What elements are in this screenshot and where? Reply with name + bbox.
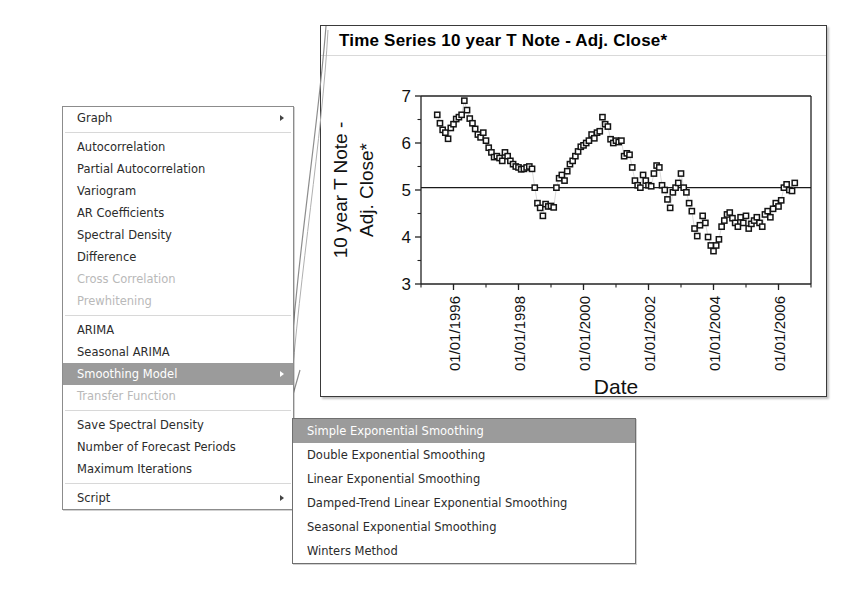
menu-item-variogram[interactable]: Variogram [63,180,293,202]
submenu-item-linear-exponential-smoothing[interactable]: Linear Exponential Smoothing [293,467,635,491]
data-point-marker [464,108,469,113]
submenu-item-double-exponential-smoothing[interactable]: Double Exponential Smoothing [293,443,635,467]
data-point-marker [651,171,656,176]
menu-item-label: Cross Correlation [77,272,176,286]
data-point-marker [770,206,775,211]
data-point-marker [692,226,697,231]
x-tick-label: 01/01/1998 [511,296,528,371]
chart-window: Time Series 10 year T Note - Adj. Close*… [320,25,827,397]
y-axis-title-line2: Adj. Close* [356,142,377,237]
menu-item-transfer-function: Transfer Function [63,385,293,407]
menu-item-label: Seasonal ARIMA [77,345,170,359]
y-tick-label: 4 [402,228,411,247]
menu-item-number-of-forecast-periods[interactable]: Number of Forecast Periods [63,436,293,458]
submenu-item-seasonal-exponential-smoothing[interactable]: Seasonal Exponential Smoothing [293,515,635,539]
menu-item-arima[interactable]: ARIMA [63,319,293,341]
menu-item-label: ARIMA [77,323,114,337]
data-point-marker [540,213,545,218]
data-point-marker [700,213,705,218]
data-point-marker [735,224,740,229]
menu-item-maximum-iterations[interactable]: Maximum Iterations [63,458,293,480]
data-point-marker [445,136,450,141]
menu-item-label: Prewhitening [77,294,152,308]
menu-item-seasonal-arima[interactable]: Seasonal ARIMA [63,341,293,363]
smoothing-model-submenu[interactable]: Simple Exponential SmoothingDouble Expon… [292,418,636,564]
data-point-marker [592,136,597,141]
data-point-marker [532,185,537,190]
x-tick-label: 01/01/1996 [446,296,463,371]
menu-item-script[interactable]: Script [63,487,293,509]
chart-title: Time Series 10 year T Note - Adj. Close* [321,26,826,56]
menu-item-label: Script [77,491,110,505]
menu-item-prewhitening: Prewhitening [63,290,293,312]
x-tick-label: 01/01/2000 [576,296,593,371]
data-point-marker [462,98,467,103]
data-point-marker [738,215,743,220]
chevron-right-icon [280,371,284,377]
data-point-marker [708,243,713,248]
data-point-marker [443,130,448,135]
data-point-marker [662,187,667,192]
menu-separator [65,410,291,411]
chevron-right-icon [280,495,284,501]
data-point-marker [754,215,759,220]
data-point-marker [697,223,702,228]
data-point-marker [714,243,719,248]
menu-separator [65,483,291,484]
menu-item-label: Variogram [77,184,136,198]
menu-item-ar-coefficients[interactable]: AR Coefficients [63,202,293,224]
menu-item-label: Partial Autocorrelation [77,162,205,176]
analysis-context-menu[interactable]: GraphAutocorrelationPartial Autocorrelat… [62,106,294,510]
menu-item-spectral-density[interactable]: Spectral Density [63,224,293,246]
data-point-marker [722,218,727,223]
menu-item-partial-autocorrelation[interactable]: Partial Autocorrelation [63,158,293,180]
menu-item-label: Save Spectral Density [77,418,204,432]
data-point-marker [538,205,543,210]
data-point-marker [719,224,724,229]
menu-item-label: Number of Forecast Periods [77,440,236,454]
menu-item-graph[interactable]: Graph [63,107,293,129]
menu-item-smoothing-model[interactable]: Smoothing Model [63,363,293,385]
menu-item-autocorrelation[interactable]: Autocorrelation [63,136,293,158]
data-point-marker [657,165,662,170]
menu-item-label: Autocorrelation [77,140,165,154]
y-axis-title-line1: 10 year T Note - [330,122,351,259]
data-point-marker [619,138,624,143]
menu-separator [65,132,291,133]
submenu-item-damped-trend-linear-exponential-smoothing[interactable]: Damped-Trend Linear Exponential Smoothin… [293,491,635,515]
submenu-item-label: Simple Exponential Smoothing [307,424,484,438]
data-point-marker [562,178,567,183]
menu-item-label: Difference [77,250,136,264]
submenu-item-label: Winters Method [307,544,398,558]
data-point-marker [765,209,770,214]
submenu-item-simple-exponential-smoothing[interactable]: Simple Exponential Smoothing [293,419,635,443]
data-point-marker [627,152,632,157]
menu-item-save-spectral-density[interactable]: Save Spectral Density [63,414,293,436]
data-point-marker [559,172,564,177]
menu-item-cross-correlation: Cross Correlation [63,268,293,290]
data-point-marker [649,184,654,189]
data-point-marker [435,112,440,117]
data-point-marker [565,169,570,174]
menu-item-label: AR Coefficients [77,206,164,220]
submenu-item-label: Damped-Trend Linear Exponential Smoothin… [307,496,567,510]
data-point-marker [638,185,643,190]
submenu-item-winters-method[interactable]: Winters Method [293,539,635,563]
menu-item-label: Graph [77,111,112,125]
time-series-scatter-plot: 3456701/01/199601/01/199801/01/200001/01… [321,56,826,395]
data-point-marker [687,201,692,206]
data-point-marker [554,185,559,190]
data-point-marker [630,165,635,170]
data-point-marker [678,171,683,176]
chevron-right-icon [280,115,284,121]
data-point-marker [727,210,732,215]
data-point-marker [676,180,681,185]
data-point-marker [529,166,534,171]
data-point-marker [600,115,605,120]
menu-item-difference[interactable]: Difference [63,246,293,268]
data-point-marker [779,198,784,203]
data-point-marker [483,138,488,143]
data-point-marker [437,121,442,126]
data-point-marker [684,190,689,195]
data-point-marker [776,204,781,209]
